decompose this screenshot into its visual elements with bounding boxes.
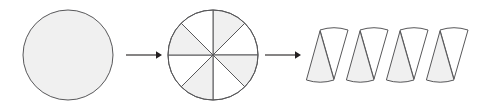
stage-divided-circle xyxy=(168,10,258,100)
arrow-one-head xyxy=(156,51,162,58)
stage-rearranged-sectors xyxy=(306,28,468,82)
circle-area-diagram xyxy=(0,0,482,108)
figure-container xyxy=(0,0,482,108)
arrow-two-head xyxy=(295,51,301,58)
stage-whole-circle xyxy=(23,10,113,100)
whole-circle-shape xyxy=(23,10,113,100)
